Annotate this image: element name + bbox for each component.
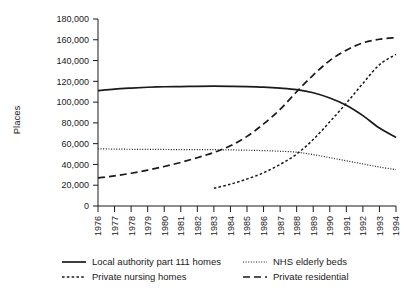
y-tick-label: 180,000 (56, 14, 89, 24)
chart-legend: Local authority part 111 homesPrivate nu… (62, 256, 349, 282)
x-tick-label: 1994 (391, 216, 401, 236)
x-tick-label: 1991 (342, 216, 352, 236)
x-tick-label: 1981 (176, 216, 186, 236)
y-axis-title: Places (11, 105, 22, 134)
legend-label: Local authority part 111 homes (92, 256, 221, 267)
x-tick-label: 1979 (143, 216, 153, 236)
legend-label: Private residential (273, 271, 349, 282)
x-tick-label: 1990 (325, 216, 335, 236)
chart-container: Places 020,00040,00060,00080,000100,0001… (0, 0, 407, 294)
y-axis-title-label: Places (11, 105, 22, 134)
y-tick-label: 0 (84, 201, 89, 211)
line-chart: Places 020,00040,00060,00080,000100,0001… (0, 0, 407, 294)
data-series-group (98, 38, 396, 189)
x-tick-label: 1989 (309, 216, 319, 236)
y-tick-label: 160,000 (56, 35, 89, 45)
legend-entry-0[interactable]: Local authority part 111 homes (62, 256, 221, 267)
y-tick-label: 120,000 (56, 77, 89, 87)
series-line-2 (98, 149, 396, 170)
x-tick-label: 1980 (160, 216, 170, 236)
x-tick-label: 1977 (110, 216, 120, 236)
y-tick-label: 20,000 (61, 180, 89, 190)
y-tick-label: 140,000 (56, 56, 89, 66)
x-tick-label: 1983 (209, 216, 219, 236)
x-tick-label: 1982 (193, 216, 203, 236)
x-tick-label: 1986 (259, 216, 269, 236)
x-tick-label: 1984 (226, 216, 236, 236)
x-axis-ticks: 1976197719781979198019811982198319841985… (93, 206, 401, 236)
legend-entry-1[interactable]: Private nursing homes (62, 271, 187, 282)
x-tick-label: 1993 (375, 216, 385, 236)
y-tick-label: 60,000 (61, 139, 89, 149)
y-tick-label: 40,000 (61, 160, 89, 170)
y-tick-label: 100,000 (56, 97, 89, 107)
x-tick-label: 1978 (127, 216, 137, 236)
legend-label: Private nursing homes (92, 271, 187, 282)
x-tick-label: 1987 (276, 216, 286, 236)
x-tick-label: 1988 (292, 216, 302, 236)
x-tick-label: 1992 (358, 216, 368, 236)
y-tick-label: 80,000 (61, 118, 89, 128)
x-tick-label: 1985 (242, 216, 252, 236)
legend-entry-2[interactable]: NHS elderly beds (243, 256, 347, 267)
legend-label: NHS elderly beds (273, 256, 347, 267)
y-axis-ticks: 020,00040,00060,00080,000100,000120,0001… (56, 14, 98, 211)
x-tick-label: 1976 (93, 216, 103, 236)
series-line-1 (214, 54, 396, 188)
legend-entry-3[interactable]: Private residential (243, 271, 349, 282)
series-line-0 (98, 86, 396, 137)
